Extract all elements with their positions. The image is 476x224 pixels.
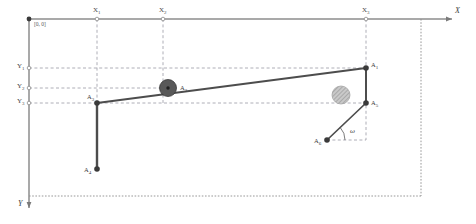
y-tick-3-sub: 3 bbox=[22, 101, 25, 106]
y-axis-arrow bbox=[27, 202, 32, 208]
mechanism-links bbox=[97, 68, 366, 169]
hatched-disc bbox=[332, 86, 350, 104]
tick-x2 bbox=[161, 17, 165, 21]
tick-y1 bbox=[27, 66, 31, 70]
tick-x1 bbox=[95, 17, 99, 21]
node-a2-sub: 2 bbox=[185, 88, 188, 93]
kinematic-diagram: [0, 0] X Y X1 X2 X3 Y1 Y2 Y3 A1 A2 A3 A4… bbox=[0, 0, 476, 224]
axis-lines bbox=[27, 17, 452, 208]
node-label-a1: A1 bbox=[371, 62, 378, 69]
node-a1-sub: 1 bbox=[376, 65, 379, 70]
y-tick-1-sub: 1 bbox=[22, 66, 25, 71]
node-label-a4: A4 bbox=[84, 167, 91, 174]
diagram-canvas bbox=[0, 0, 476, 224]
tick-y2 bbox=[27, 86, 31, 90]
x-axis-label: X bbox=[455, 7, 460, 15]
tick-y3 bbox=[27, 101, 31, 105]
y-axis-label: Y bbox=[18, 200, 22, 208]
node-label-a5: A5 bbox=[371, 100, 378, 107]
joint-pins bbox=[94, 65, 369, 172]
x-tick-label-2: X2 bbox=[159, 7, 167, 14]
node-a4-sub: 4 bbox=[89, 170, 92, 175]
node-a3-base: A bbox=[87, 93, 92, 100]
y-tick-label-3: Y3 bbox=[17, 98, 25, 105]
node-a2-base: A bbox=[180, 84, 185, 91]
node-label-a3: A3 bbox=[87, 94, 94, 101]
tick-x3 bbox=[364, 17, 368, 21]
pin-a6 bbox=[324, 137, 330, 143]
pin-a3 bbox=[94, 100, 100, 106]
x-tick-2-sub: 2 bbox=[164, 10, 167, 15]
angle-label-omega: ω bbox=[350, 128, 355, 135]
roller-node-a2 bbox=[160, 80, 177, 97]
x-tick-1-sub: 1 bbox=[98, 10, 101, 15]
x-axis-arrow bbox=[446, 17, 452, 22]
y-tick-2-sub: 2 bbox=[22, 86, 25, 91]
construction-gridlines bbox=[29, 19, 366, 140]
node-a5-base: A bbox=[371, 99, 376, 106]
x-tick-3-sub: 3 bbox=[367, 10, 370, 15]
node-a6-base: A bbox=[314, 137, 319, 144]
pin-a5 bbox=[363, 100, 369, 106]
node-label-a6: A6 bbox=[314, 138, 321, 145]
x-tick-label-1: X1 bbox=[93, 7, 101, 14]
axis-tick-marks bbox=[27, 17, 368, 105]
pin-a4 bbox=[94, 166, 100, 172]
link-a3-a1-beam bbox=[97, 68, 366, 103]
x-tick-label-3: X3 bbox=[362, 7, 370, 14]
node-label-a2: A2 bbox=[180, 85, 187, 92]
origin-marker bbox=[27, 17, 32, 22]
pin-a1 bbox=[363, 65, 369, 71]
link-a6-a5-brace bbox=[327, 103, 366, 140]
node-a5-sub: 5 bbox=[376, 103, 379, 108]
origin-coordinate-label: [0, 0] bbox=[34, 22, 46, 28]
angle-arc-omega bbox=[340, 128, 345, 141]
node-a4-base: A bbox=[84, 166, 89, 173]
y-tick-label-1: Y1 bbox=[17, 63, 25, 70]
node-a1-base: A bbox=[371, 61, 376, 68]
node-a3-sub: 3 bbox=[92, 97, 95, 102]
y-tick-label-2: Y2 bbox=[17, 83, 25, 90]
node-a6-sub: 6 bbox=[319, 141, 322, 146]
